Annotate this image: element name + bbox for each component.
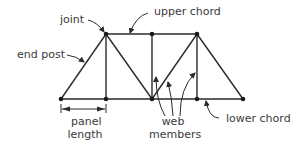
- joint-leader-arrow: [88, 20, 104, 32]
- diagonal-member-1: [106, 34, 152, 99]
- joint-dot: [150, 97, 155, 102]
- panel-length-label-line1: panel: [71, 115, 99, 128]
- dimension-arrowhead-right: [97, 107, 105, 112]
- diagonal-member-2: [152, 34, 197, 99]
- joint-label: joint: [60, 13, 84, 26]
- end-post-right: [197, 34, 243, 99]
- upper-chord-leader-arrow: [130, 13, 148, 33]
- joint-dot: [150, 32, 155, 37]
- lower-chord-label: lower chord: [226, 112, 291, 125]
- joint-dot: [104, 97, 109, 102]
- web-members-label-line1: web: [160, 115, 186, 128]
- truss-members: [61, 34, 243, 99]
- panel-length-label-line2: length: [67, 128, 103, 141]
- joint-dot: [241, 97, 246, 102]
- joint-dot: [195, 32, 200, 37]
- web-members-label-line2: members: [149, 128, 199, 141]
- joint-dot: [104, 32, 109, 37]
- joint-dot: [195, 97, 200, 102]
- web-leader-arrow-3: [180, 73, 195, 116]
- joint-dot: [59, 97, 64, 102]
- dimension-arrowhead-left: [62, 107, 70, 112]
- panel-length-dimension: [61, 104, 106, 113]
- end-post-leader-arrow: [67, 55, 84, 62]
- end-post-left: [61, 34, 106, 99]
- upper-chord-label: upper chord: [154, 5, 221, 18]
- leader-lines: [67, 13, 219, 118]
- end-post-label: end post: [17, 48, 65, 61]
- lower-chord-leader-arrow: [206, 101, 219, 118]
